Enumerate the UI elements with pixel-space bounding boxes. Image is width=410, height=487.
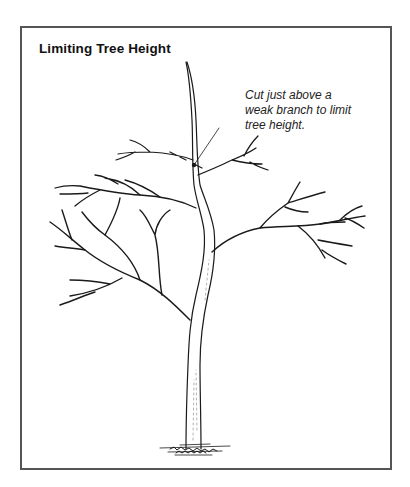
branch-right-upper (198, 136, 268, 175)
tree-trunk (186, 62, 215, 449)
ground-mulch (160, 444, 230, 455)
branch-left-lower (50, 198, 190, 320)
branch-right-main (212, 182, 365, 264)
branch-left-top (116, 140, 193, 160)
tree-illustration (0, 0, 410, 487)
cut-marker (170, 128, 219, 168)
branch-left-upper (55, 175, 196, 208)
